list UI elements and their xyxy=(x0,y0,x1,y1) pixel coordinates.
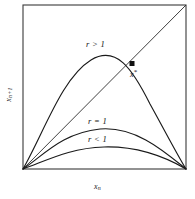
curve-label-r-less-than-1: r < 1 xyxy=(88,134,107,144)
fixed-point-star: * xyxy=(134,68,138,76)
plot-canvas xyxy=(0,0,195,199)
curve-label-r-greater-than-1: r > 1 xyxy=(86,39,105,49)
curve-r-greater-than-1 xyxy=(23,55,186,169)
x-axis-label: xn xyxy=(0,182,195,191)
logistic-map-figure: r > 1 r = 1 r < 1 x* xn xn+1 xyxy=(0,0,195,199)
fixed-point-label: x* xyxy=(130,68,138,79)
fixed-point-marker xyxy=(130,61,135,66)
curve-label-r-equals-1: r = 1 xyxy=(88,116,107,126)
x-axis-label-subscript: n xyxy=(98,185,101,191)
y-axis-label: xn+1 xyxy=(4,65,13,125)
identity-line xyxy=(23,5,186,169)
y-axis-label-subscript: n+1 xyxy=(7,87,13,98)
y-axis-label-base: x xyxy=(4,98,13,102)
